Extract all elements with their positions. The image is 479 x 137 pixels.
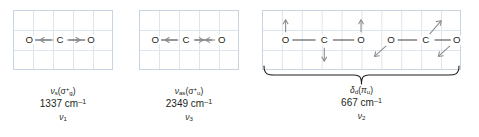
molecule-diagram-symmetric-stretch: O C O <box>14 11 112 69</box>
mode-number-bending: ν2 <box>262 112 461 122</box>
atom-halo-oxygen-left <box>23 34 35 46</box>
atom-halo-carbon-b <box>420 34 432 46</box>
atom-carbon: C <box>57 34 64 45</box>
atom-halo-carbon <box>180 34 192 46</box>
molecule-diagram-bending: O C O O C O <box>263 11 460 69</box>
atom-halo-carbon <box>54 34 66 46</box>
atom-carbon-b: C <box>422 34 429 45</box>
atom-oxygen-right-a: O <box>357 34 365 45</box>
mode-number-subscript: 3 <box>189 115 192 122</box>
arrow-right-oxygen-leftward <box>205 38 215 43</box>
mode-number-asymmetric-stretch: ν3 <box>139 113 239 123</box>
atom-carbon-a: C <box>321 34 328 45</box>
co2-vibrational-modes-figure: O C O νs(σ+g) 1337 cm–1 ν1 <box>0 0 479 137</box>
symmetry-close-paren: ) <box>370 85 373 95</box>
wavenumber-unit-exponent: –1 <box>374 96 382 105</box>
caption-asymmetric-stretch: νas(σ+u) 2349 cm–1 ν3 <box>139 86 239 123</box>
atom-oxygen-left-a: O <box>282 34 290 45</box>
frequency-asymmetric-stretch: 2349 cm–1 <box>139 98 239 109</box>
molecule-diagram-asymmetric-stretch: O C O <box>140 11 238 69</box>
arrow-carbon-up-right <box>430 21 442 35</box>
atom-oxygen-right: O <box>87 34 95 45</box>
atom-halo-oxygen-right-b <box>451 34 463 46</box>
atom-oxygen-right-b: O <box>453 34 461 45</box>
caption-bending: δd(πu) 667 cm–1 ν2 <box>262 86 461 123</box>
mode-label-asymmetric-stretch: νas(σ+u) <box>139 86 239 97</box>
atom-oxygen-left-b: O <box>387 34 395 45</box>
arrow-oxygen-left-up <box>283 20 288 33</box>
mode-panel-bending: O C O O C O <box>262 10 461 70</box>
atom-oxygen-left: O <box>25 34 33 45</box>
mode-number-symmetric-stretch: ν1 <box>13 113 113 123</box>
mode-number-subscript: 2 <box>362 115 365 122</box>
arrow-left-oxygen-outward <box>40 37 54 42</box>
atom-halo-oxygen-left-a <box>280 34 292 46</box>
frequency-symmetric-stretch: 1337 cm–1 <box>13 98 113 109</box>
wavenumber-unit: cm <box>65 98 78 109</box>
arrow-oxygen-right-down-left <box>438 46 450 57</box>
arrow-carbon-rightward <box>194 38 204 43</box>
atom-halo-oxygen-left-b <box>385 34 397 46</box>
arrow-oxygen-left-down-left <box>375 46 387 57</box>
atom-halo-oxygen-right-a <box>355 34 367 46</box>
mode-panel-symmetric-stretch: O C O <box>13 10 113 70</box>
atom-oxygen-left: O <box>151 34 159 45</box>
wavenumber-value: 667 <box>341 97 358 108</box>
wavenumber-unit-exponent: –1 <box>78 97 86 106</box>
atom-carbon: C <box>183 34 190 45</box>
arrow-carbon-down <box>322 48 327 62</box>
mode-label-symmetric-stretch: νs(σ+g) <box>13 86 113 97</box>
symmetry-close-paren: ) <box>73 86 76 96</box>
arrow-right-oxygen-outward <box>67 37 81 42</box>
frequency-bending: 667 cm–1 <box>262 97 461 108</box>
wavenumber-unit-exponent: –1 <box>204 97 212 106</box>
wavenumber-unit: cm <box>361 97 374 108</box>
wavenumber-value: 2349 <box>166 98 188 109</box>
atom-halo-oxygen-left <box>149 34 161 46</box>
wavenumber-unit: cm <box>191 98 204 109</box>
atom-halo-oxygen-right <box>85 34 97 46</box>
arrow-left-oxygen-leftward <box>165 37 179 42</box>
mode-panel-asymmetric-stretch: O C O <box>139 10 239 70</box>
atom-oxygen-right: O <box>218 34 226 45</box>
arrow-oxygen-right-up <box>359 20 364 33</box>
mode-number-subscript: 1 <box>63 115 66 122</box>
mode-label-bending: δd(πu) <box>262 86 461 96</box>
caption-symmetric-stretch: νs(σ+g) 1337 cm–1 ν1 <box>13 86 113 123</box>
atom-halo-carbon-a <box>318 34 330 46</box>
symmetry-close-paren: ) <box>200 86 203 96</box>
atom-halo-oxygen-right <box>216 34 228 46</box>
wavenumber-value: 1337 <box>40 98 62 109</box>
